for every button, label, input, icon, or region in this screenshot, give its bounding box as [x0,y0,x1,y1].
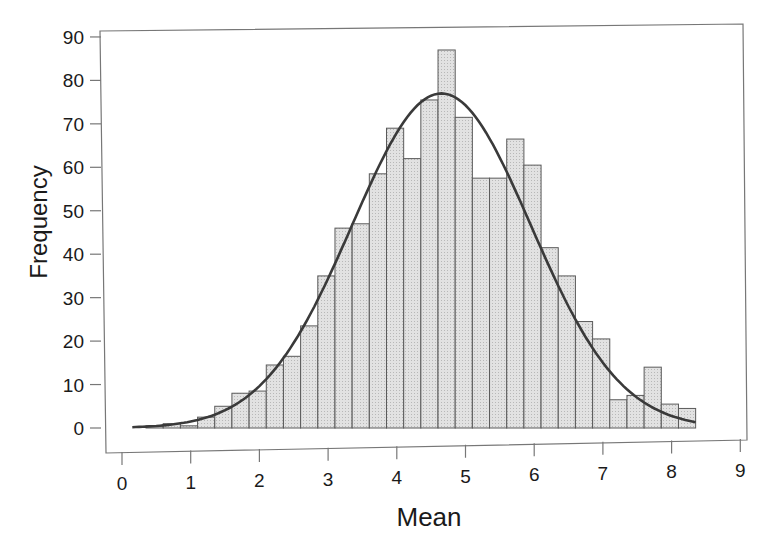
x-tick-label: 1 [185,472,196,493]
histogram-bar [283,356,300,428]
y-tick-label: 90 [63,27,84,48]
histogram-bar [438,50,455,428]
y-axis-label: Frequency [25,165,52,278]
histogram-bar [421,100,438,428]
histogram-bar [558,276,575,428]
histogram-bar [215,406,232,428]
histogram-bar [180,426,197,428]
histogram-bar [404,159,421,428]
x-tick-label: 8 [666,461,677,482]
histogram-chart: 0102030405060708090 0123456789 Frequency… [0,0,778,548]
histogram-bar [644,367,661,428]
x-tick-label: 5 [460,466,471,487]
x-tick-label: 6 [529,464,540,485]
histogram-bar [352,224,369,428]
y-tick-label: 80 [63,70,84,91]
histogram-bar [490,178,507,428]
x-tick-label: 0 [117,473,128,494]
histogram-bar [541,248,558,428]
histogram-bar [301,326,318,428]
histogram-bar [369,174,386,428]
y-tick-label: 10 [63,375,84,396]
x-tick-label: 4 [392,467,403,488]
y-tick-label: 20 [63,331,84,352]
histogram-bar [249,391,266,428]
x-tick-label: 3 [323,469,334,490]
y-tick-label: 70 [63,114,84,135]
histogram-bar [575,322,592,428]
y-tick-label: 60 [63,157,84,178]
x-axis: 0123456789 [117,439,746,494]
x-tick-label: 2 [254,470,265,491]
y-axis: 0102030405060708090 [63,27,101,439]
y-tick-label: 50 [63,201,84,222]
histogram-bar [386,128,403,428]
histogram-bar [610,400,627,428]
x-axis-label: Mean [396,502,461,532]
y-tick-label: 0 [73,418,84,439]
histogram-bar [507,139,524,428]
histogram-bar [318,276,335,428]
x-tick-label: 9 [735,460,746,481]
histogram-bar [524,165,541,428]
y-tick-label: 30 [63,288,84,309]
histogram-bars [146,50,696,428]
histogram-bar [455,117,472,428]
histogram-bar [472,178,489,428]
x-tick-label: 7 [598,463,609,484]
y-tick-label: 40 [63,244,84,265]
